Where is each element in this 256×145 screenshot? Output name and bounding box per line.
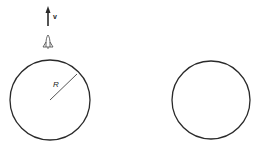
radius-label: R [53, 80, 59, 89]
velocity-arrow-icon [46, 6, 51, 26]
rocket-icon [43, 35, 53, 49]
right-circle [172, 61, 250, 139]
diagram-canvas: v R [0, 0, 256, 145]
velocity-label: v [53, 13, 57, 20]
